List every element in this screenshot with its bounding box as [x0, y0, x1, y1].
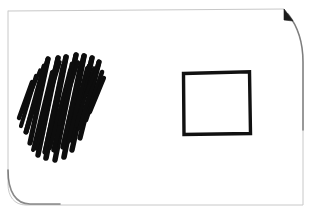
sketch-drawing — [0, 0, 312, 217]
sketch-canvas: Hand-drawn sketch on white paper — [0, 0, 312, 217]
